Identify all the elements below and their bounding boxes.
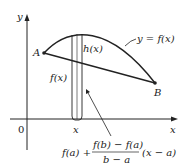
origin-label: 0 — [18, 124, 24, 135]
x-axis-arrow-icon — [171, 117, 178, 122]
lower-label: f(x) — [49, 72, 67, 83]
point-b — [153, 81, 157, 85]
y-axis-label: y — [16, 11, 23, 22]
formula-suffix: (x − a) — [142, 147, 176, 158]
point-a-label: A — [32, 47, 40, 58]
mean-value-diagram: y x 0 A B y = f(x) h(x) f(x) x f(a) + f(… — [0, 0, 185, 168]
point-b-label: B — [153, 87, 161, 98]
x-axis-label: x — [170, 124, 176, 135]
y-axis-arrow-icon — [25, 14, 30, 21]
formula-leader — [87, 91, 111, 136]
curve-label: y = f(x) — [136, 33, 175, 44]
curve-label-leader — [125, 39, 136, 46]
strip-x-label: x — [73, 124, 79, 135]
formula-numerator: f(b) − f(a) — [92, 139, 143, 150]
point-a — [42, 51, 46, 55]
formula-prefix: f(a) + — [61, 147, 91, 158]
formula-denominator: b − a — [103, 154, 130, 165]
height-label: h(x) — [83, 43, 103, 54]
